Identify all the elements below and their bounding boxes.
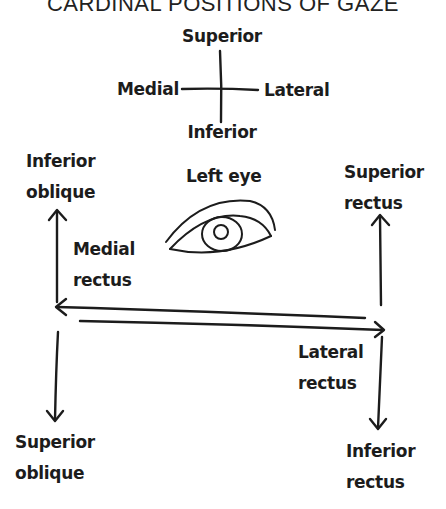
inferior-rectus-arrow-icon	[370, 337, 386, 429]
muscle-label-superior-oblique: Superior oblique	[15, 427, 95, 489]
inferior-rectus-line2: rectus	[346, 467, 415, 498]
muscle-label-superior-rectus: Superior rectus	[344, 157, 424, 219]
superior-oblique-line1: Superior	[15, 427, 95, 458]
inferior-rectus-line1: Inferior	[346, 436, 415, 467]
medial-rectus-line1: Medial	[73, 234, 135, 265]
superior-oblique-arrow-icon	[47, 332, 63, 421]
eye-icon	[166, 201, 275, 253]
medial-rectus-line2: rectus	[73, 265, 135, 296]
muscle-label-lateral-rectus: Lateral rectus	[298, 337, 364, 399]
compass-inferior-label: Inferior	[184, 117, 260, 148]
compass-lateral-label: Lateral	[264, 75, 330, 106]
lateral-rectus-arrow-icon	[80, 321, 384, 337]
inferior-oblique-line1: Inferior	[26, 146, 95, 177]
superior-rectus-line2: rectus	[344, 188, 424, 219]
compass-medial-label: Medial	[117, 74, 179, 105]
lateral-rectus-line2: rectus	[298, 368, 364, 399]
superior-rectus-arrow-icon	[372, 215, 389, 305]
compass-crosshair-icon	[182, 51, 258, 122]
inferior-oblique-line2: oblique	[26, 177, 95, 208]
superior-rectus-line1: Superior	[344, 157, 424, 188]
muscle-label-inferior-oblique: Inferior oblique	[26, 146, 95, 208]
compass-superior-label: Superior	[180, 21, 264, 52]
medial-rectus-arrow-icon	[56, 299, 365, 318]
superior-oblique-line2: oblique	[15, 458, 95, 489]
lateral-rectus-line1: Lateral	[298, 337, 364, 368]
muscle-label-medial-rectus: Medial rectus	[73, 234, 135, 296]
inferior-oblique-arrow-icon	[49, 210, 66, 302]
muscle-label-inferior-rectus: Inferior rectus	[346, 436, 415, 498]
eye-label: Left eye	[186, 161, 262, 192]
